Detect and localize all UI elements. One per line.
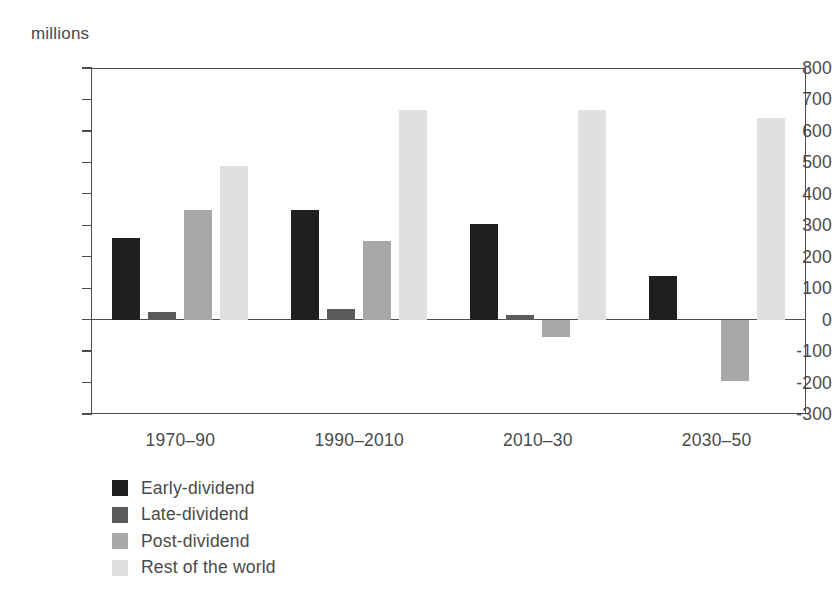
bar-chart: millions 8007006005004003002001000-100-2…	[0, 0, 832, 607]
bar	[184, 210, 212, 320]
y-axis-label: 700	[758, 89, 832, 110]
legend-item: Rest of the world	[112, 556, 276, 580]
y-axis-label: 800	[758, 58, 832, 79]
y-axis-label: 300	[758, 215, 832, 236]
y-axis-tick	[82, 162, 92, 163]
legend-item: Post-dividend	[112, 529, 276, 553]
chart-legend: Early-dividendLate-dividendPost-dividend…	[112, 476, 276, 582]
y-axis-label: 500	[758, 152, 832, 173]
legend-label: Late-dividend	[141, 504, 249, 525]
bar	[148, 312, 176, 320]
y-axis-label: 200	[758, 246, 832, 267]
legend-swatch-icon	[112, 507, 128, 523]
y-axis-unit-label: millions	[31, 24, 89, 44]
y-axis-tick	[82, 413, 92, 414]
y-axis-tick	[82, 350, 92, 351]
y-axis-label: 600	[758, 120, 832, 141]
bar	[399, 110, 427, 319]
legend-item: Early-dividend	[112, 476, 276, 500]
bar	[112, 238, 140, 320]
legend-item: Late-dividend	[112, 503, 276, 527]
bar	[578, 110, 606, 319]
bar	[220, 166, 248, 320]
y-axis-label: 0	[758, 309, 832, 330]
x-axis-label: 1990–2010	[314, 430, 403, 451]
legend-label: Early-dividend	[141, 478, 255, 499]
y-axis-tick	[82, 225, 92, 226]
x-axis-label: 1970–90	[146, 430, 216, 451]
y-axis-tick	[82, 99, 92, 100]
legend-label: Post-dividend	[141, 531, 250, 552]
bar	[327, 309, 355, 320]
legend-swatch-icon	[112, 560, 128, 576]
legend-swatch-icon	[112, 533, 128, 549]
y-axis-tick	[82, 382, 92, 383]
y-axis-tick	[82, 130, 92, 131]
y-axis-label: 400	[758, 183, 832, 204]
bar	[291, 210, 319, 320]
legend-label: Rest of the world	[141, 557, 276, 578]
y-axis-tick	[82, 193, 92, 194]
y-axis-tick	[82, 67, 92, 68]
x-axis-label: 2010–30	[503, 430, 573, 451]
bar	[649, 276, 677, 320]
legend-swatch-icon	[112, 480, 128, 496]
y-axis-tick	[82, 256, 92, 257]
y-axis-label: -200	[758, 372, 832, 393]
bar	[506, 315, 534, 320]
x-axis-label: 2030–50	[682, 430, 752, 451]
bar	[363, 241, 391, 320]
plot-area	[91, 68, 806, 414]
y-axis-tick	[82, 288, 92, 289]
bar	[542, 320, 570, 337]
bar	[721, 320, 749, 381]
y-axis-label: 100	[758, 278, 832, 299]
y-axis-label: -100	[758, 341, 832, 362]
bar	[470, 224, 498, 320]
y-axis-label: -300	[758, 404, 832, 425]
y-axis-tick	[82, 319, 92, 320]
